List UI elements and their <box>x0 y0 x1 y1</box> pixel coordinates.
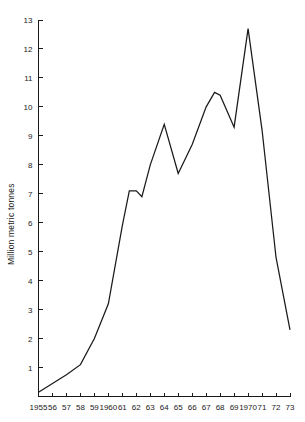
y-tick-label-13: 13 <box>24 16 33 25</box>
x-axis-ticks <box>39 393 291 397</box>
x-tick-label-1971: 71 <box>258 403 267 412</box>
y-tick-label-2: 2 <box>28 335 33 344</box>
x-tick-label-1956: 56 <box>48 403 57 412</box>
y-tick-label-6: 6 <box>28 219 33 228</box>
x-tick-label-1960: 1960 <box>99 403 117 412</box>
x-tick-label-1968: 68 <box>216 403 225 412</box>
data-line-production <box>39 29 291 392</box>
y-tick-label-12: 12 <box>24 45 33 54</box>
x-tick-label-1962: 62 <box>132 403 141 412</box>
y-tick-label-11: 11 <box>24 74 33 83</box>
x-tick-label-1967: 67 <box>202 403 211 412</box>
x-axis-tick-labels: 1955565758591960616263646566676869197071… <box>30 403 295 412</box>
x-tick-label-1965: 65 <box>174 403 183 412</box>
y-tick-label-8: 8 <box>28 161 33 170</box>
x-tick-label-1964: 64 <box>160 403 169 412</box>
y-tick-label-1: 1 <box>28 364 33 373</box>
y-tick-label-9: 9 <box>28 132 33 141</box>
y-axis: 12345678910111213 <box>24 16 43 397</box>
x-axis: 1955565758591960616263646566676869197071… <box>30 393 295 412</box>
y-tick-label-5: 5 <box>28 248 33 257</box>
y-tick-label-4: 4 <box>28 277 33 286</box>
data-series-group <box>39 29 291 392</box>
x-tick-label-1973: 73 <box>286 403 295 412</box>
x-tick-label-1955: 1955 <box>30 403 48 412</box>
x-tick-label-1957: 57 <box>62 403 71 412</box>
y-axis-title: Million metric tonnes <box>6 183 16 265</box>
x-tick-label-1969: 69 <box>230 403 239 412</box>
x-tick-label-1963: 63 <box>146 403 155 412</box>
y-tick-label-3: 3 <box>28 306 33 315</box>
y-tick-label-7: 7 <box>28 190 33 199</box>
x-tick-label-1961: 61 <box>118 403 127 412</box>
y-tick-label-10: 10 <box>24 103 33 112</box>
x-tick-label-1959: 59 <box>90 403 99 412</box>
chart-canvas: 12345678910111213 1955565758591960616263… <box>0 0 305 422</box>
line-chart: 12345678910111213 1955565758591960616263… <box>0 0 305 422</box>
x-tick-label-1966: 66 <box>188 403 197 412</box>
x-tick-label-1958: 58 <box>76 403 85 412</box>
y-axis-ticks <box>39 20 43 397</box>
y-axis-title-text: Million metric tonnes <box>6 183 16 265</box>
y-axis-tick-labels: 12345678910111213 <box>24 16 33 373</box>
x-tick-label-1972: 72 <box>272 403 281 412</box>
x-tick-label-1970: 1970 <box>239 403 257 412</box>
